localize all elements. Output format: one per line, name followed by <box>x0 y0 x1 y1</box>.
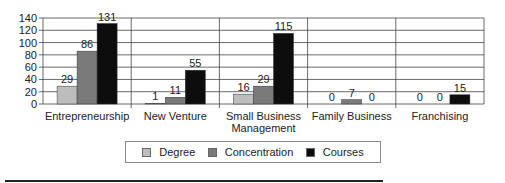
x-category-label: Small Business <box>226 110 302 122</box>
x-category-label: Family Business <box>312 110 393 122</box>
data-label: 7 <box>349 87 355 99</box>
legend-swatch-courses <box>306 148 315 157</box>
x-category-label: Entrepreneurship <box>45 110 129 122</box>
legend-swatch-concentration <box>208 148 217 157</box>
y-tick-label: 120 <box>19 24 37 36</box>
bar-concentration <box>342 100 362 104</box>
data-label: 0 <box>329 91 335 103</box>
legend-item-concentration: Concentration <box>208 146 294 158</box>
y-tick-label: 0 <box>31 98 37 110</box>
data-label: 29 <box>257 73 269 85</box>
bar-courses <box>97 24 117 104</box>
x-category-label: Franchising <box>411 110 468 122</box>
y-tick-label: 20 <box>25 86 37 98</box>
y-tick-label: 140 <box>19 12 37 24</box>
data-label: 29 <box>61 73 73 85</box>
data-label: 16 <box>237 81 249 93</box>
legend-label-concentration: Concentration <box>225 146 294 158</box>
data-label: 86 <box>81 38 93 50</box>
y-tick-label: 40 <box>25 73 37 85</box>
data-label: 0 <box>437 91 443 103</box>
data-label: 131 <box>98 11 116 23</box>
data-label: 1 <box>152 90 158 102</box>
legend-label-degree: Degree <box>159 146 195 158</box>
bar-concentration <box>77 51 97 104</box>
legend-item-courses: Courses <box>306 146 364 158</box>
y-tick-label: 80 <box>25 49 37 61</box>
bar-chart: 0204060801001201402986131Entrepreneurshi… <box>0 0 505 140</box>
bar-courses <box>450 95 470 104</box>
bar-concentration <box>254 86 274 104</box>
data-label: 15 <box>454 82 466 94</box>
data-label: 55 <box>189 57 201 69</box>
bar-degree <box>145 103 165 104</box>
bar-concentration <box>165 97 185 104</box>
legend-swatch-degree <box>142 148 151 157</box>
bottom-rule <box>5 180 383 182</box>
data-label: 11 <box>170 84 181 96</box>
legend-label-courses: Courses <box>323 146 364 158</box>
bar-degree <box>234 94 254 104</box>
y-tick-label: 60 <box>25 61 37 73</box>
legend-item-degree: Degree <box>142 146 195 158</box>
bar-courses <box>274 33 294 104</box>
x-category-label: New Venture <box>144 110 207 122</box>
data-label: 0 <box>417 91 423 103</box>
data-label: 115 <box>275 20 293 32</box>
data-label: 0 <box>369 91 375 103</box>
chart-legend: Degree Concentration Courses <box>125 141 381 163</box>
y-tick-label: 100 <box>19 37 37 49</box>
x-category-label: Management <box>231 122 295 134</box>
bar-degree <box>57 86 77 104</box>
bar-courses <box>185 70 205 104</box>
